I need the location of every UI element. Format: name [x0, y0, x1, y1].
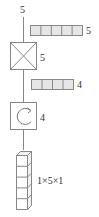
vector-mid-size-label: 4: [77, 80, 82, 90]
cross-box-icon: [11, 43, 37, 70]
rotate-cw-icon: [11, 103, 37, 130]
input-size-label: 5: [20, 5, 25, 15]
tensor-stack-icon: [17, 152, 32, 210]
vector-mid: [32, 80, 74, 90]
dense-block-size-label: 5: [40, 53, 45, 63]
recurrent-block-size-label: 4: [40, 113, 45, 123]
vector-top: [31, 26, 83, 36]
output-tensor-shape-label: 1×5×1: [37, 176, 63, 186]
vector-top-size-label: 5: [86, 26, 91, 36]
